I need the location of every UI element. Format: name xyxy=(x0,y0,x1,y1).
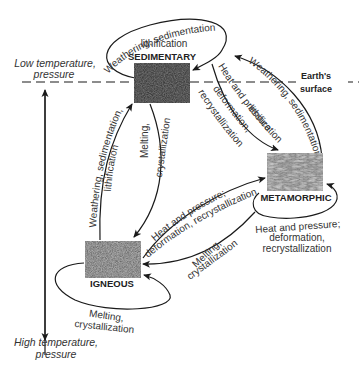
low-temp-label-line2: pressure xyxy=(33,68,75,80)
metamorphic-label: METAMORPHIC xyxy=(260,192,331,203)
high-temp-label-line1: High temperature, xyxy=(14,336,98,348)
metamorphic-texture xyxy=(267,153,323,191)
meta-loop-label-line2: deformation, xyxy=(269,232,325,243)
earths-surface-label-line2: surface xyxy=(300,84,332,94)
sed-to-ign-label-line2: crystallization xyxy=(153,117,172,178)
sed-loop-label-line2: lithification xyxy=(141,38,188,49)
sedimentary-texture xyxy=(134,63,190,103)
igneous-label: IGNEOUS xyxy=(90,278,134,289)
sed-to-ign-label-line1: Melting, xyxy=(139,123,150,158)
earths-surface-label-line1: Earth's xyxy=(301,71,331,81)
metamorphic-node: METAMORPHIC xyxy=(260,153,331,203)
rock-cycle-diagram: Low temperature, pressure High temperatu… xyxy=(0,0,359,375)
sedimentary-node: SEDIMENTARY xyxy=(128,51,197,103)
meta-loop-label-line3: recrystallization xyxy=(263,243,332,254)
igneous-node: IGNEOUS xyxy=(85,241,141,289)
high-temp-label-line2: pressure xyxy=(35,348,77,360)
ign-loop-label-line2: crystallization xyxy=(74,318,135,335)
ign-to-meta-label-line2: deformation, recrystallization xyxy=(142,186,258,260)
igneous-texture xyxy=(85,241,141,278)
